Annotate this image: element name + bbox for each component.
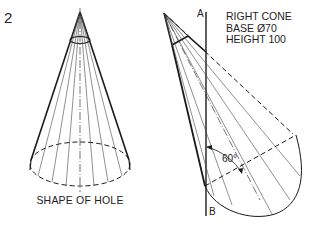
left-view-caption: SHAPE OF HOLE bbox=[30, 194, 130, 206]
axis-label-b: B bbox=[209, 206, 216, 217]
angle-label: 60° bbox=[222, 153, 237, 164]
axis-label-a: A bbox=[197, 8, 204, 19]
cone-specification: RIGHT CONE BASE Ø70 HEIGHT 100 bbox=[226, 11, 292, 46]
left-cone-view bbox=[30, 8, 130, 192]
spec-line-height: HEIGHT 100 bbox=[226, 34, 292, 46]
spec-line-type: RIGHT CONE bbox=[226, 11, 292, 23]
